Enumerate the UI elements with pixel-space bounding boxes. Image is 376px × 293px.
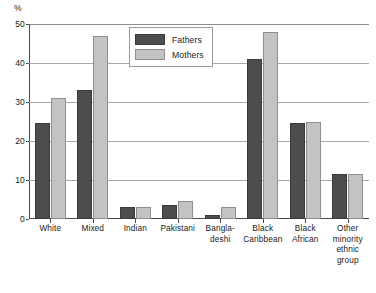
x-tick-label: BlackAfrican bbox=[284, 223, 327, 265]
legend-label-fathers: Fathers bbox=[172, 35, 202, 45]
bar-mothers bbox=[93, 36, 108, 219]
x-tick-label: Indian bbox=[114, 223, 157, 265]
bar-mothers bbox=[136, 207, 151, 219]
x-axis-labels: WhiteMixedIndianPakistaniBangla-deshiBla… bbox=[29, 223, 369, 265]
bar-fathers bbox=[205, 215, 220, 219]
bar-mothers bbox=[51, 98, 66, 219]
bar-mothers bbox=[221, 207, 236, 219]
bar-fathers bbox=[120, 207, 135, 219]
y-tick-label: 40 bbox=[15, 58, 25, 68]
x-tick-label: White bbox=[29, 223, 72, 265]
bar-fathers bbox=[162, 205, 177, 219]
y-tick-label: 50 bbox=[15, 19, 25, 29]
y-tick-label: 0 bbox=[20, 214, 25, 224]
bar-mothers bbox=[306, 122, 321, 220]
bar-group bbox=[29, 24, 72, 219]
x-tick-label: BlackCaribbean bbox=[242, 223, 285, 265]
x-tick-label: Bangla-deshi bbox=[199, 223, 242, 265]
bar-mothers bbox=[263, 32, 278, 219]
legend-item-fathers: Fathers bbox=[135, 32, 204, 47]
y-tick-label: 10 bbox=[15, 175, 25, 185]
bar-group bbox=[327, 24, 370, 219]
y-axis-unit-label: % bbox=[14, 3, 22, 13]
x-tick-label: Mixed bbox=[72, 223, 115, 265]
bar-fathers bbox=[332, 174, 347, 219]
legend-swatch-fathers bbox=[135, 34, 165, 45]
bar-mothers bbox=[348, 174, 363, 219]
bar-group bbox=[242, 24, 285, 219]
bar-fathers bbox=[35, 123, 50, 219]
bar-fathers bbox=[77, 90, 92, 219]
bar-fathers bbox=[247, 59, 262, 219]
chart-legend: Fathers Mothers bbox=[129, 27, 213, 67]
y-tick-mark bbox=[26, 219, 29, 220]
legend-item-mothers: Mothers bbox=[135, 47, 204, 62]
bar-fathers bbox=[290, 123, 305, 219]
bar-group bbox=[72, 24, 115, 219]
legend-swatch-mothers bbox=[135, 49, 165, 60]
legend-label-mothers: Mothers bbox=[172, 50, 204, 60]
y-tick-label: 20 bbox=[15, 136, 25, 146]
bar-group bbox=[284, 24, 327, 219]
bar-chart-figure: % 01020304050 WhiteMixedIndianPakistaniB… bbox=[0, 0, 376, 293]
bar-mothers bbox=[178, 201, 193, 219]
y-tick-label: 30 bbox=[15, 97, 25, 107]
x-tick-label: Pakistani bbox=[157, 223, 200, 265]
x-tick-label: Otherminorityethnic group bbox=[327, 223, 370, 265]
